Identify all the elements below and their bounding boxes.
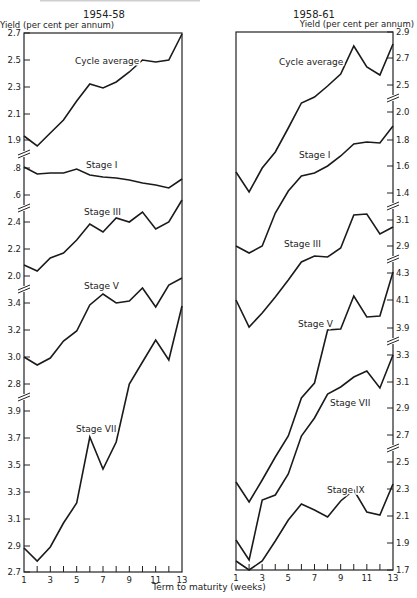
y-tick-label: .8 (13, 163, 21, 173)
y-tick-label: 1.8 (396, 135, 410, 145)
x-tick-label: 5 (74, 575, 79, 585)
y-tick-label: 2.7 (396, 430, 410, 440)
x-tick-label: 13 (388, 573, 399, 583)
y-tick-label: 2.7 (396, 53, 410, 63)
series-line-cycle-average (24, 34, 182, 146)
y-tick-label: 3.7 (7, 433, 21, 443)
series-label-stage-ix: Stage IX (327, 485, 365, 495)
x-tick-label: 5 (286, 573, 291, 583)
y-tick-label: 1.9 (396, 538, 410, 548)
series-label-cycle-average: Cycle average (75, 56, 140, 66)
y-tick-label: 2.4 (7, 217, 21, 227)
yield-curves-figure: 1954-58Yield (per cent per annum)2.72.52… (0, 0, 417, 598)
y-tick-label: 2.8 (7, 379, 21, 389)
x-axis-label: Term to maturity (weeks) (151, 582, 265, 592)
x-tick-label: 1 (21, 575, 26, 585)
y-tick-label: 2.1 (396, 511, 410, 521)
y-tick-label: 3.4 (7, 298, 21, 308)
series-line-stage-iii (236, 214, 393, 327)
series-label-stage-v: Stage V (84, 281, 120, 291)
panel-1958-61: 1958-61Yield (per cent per annum)2.92.72… (233, 9, 414, 583)
y-tick-label: 2.3 (7, 82, 21, 92)
series-line-stage-ix (236, 484, 393, 570)
y-tick-label: 2.2 (7, 244, 21, 254)
y-tick-label: 1.9 (7, 135, 21, 145)
x-tick-label: 3 (48, 575, 53, 585)
y-tick-label: 3.9 (7, 406, 21, 416)
y-tick-label: 3.1 (396, 215, 410, 225)
series-line-stage-v (236, 272, 393, 502)
panel-1954-58: 1954-58Yield (per cent per annum)2.72.52… (0, 9, 187, 585)
y-tick-label: 2.9 (396, 27, 410, 37)
y-tick-label: 2.9 (396, 403, 410, 413)
series-label-stage-i: Stage I (299, 150, 331, 160)
y-tick-label: 3.3 (7, 487, 21, 497)
x-tick-label: 7 (100, 575, 105, 585)
series-label-stage-iii: Stage III (84, 207, 121, 217)
y-tick-label: 2.5 (7, 55, 21, 65)
series-line-stage-i (236, 126, 393, 253)
y-tick-label: 3.3 (396, 350, 410, 360)
y-tick-label: 2.0 (7, 271, 21, 281)
x-tick-label: 11 (361, 573, 372, 583)
y-tick-label: 4.3 (396, 268, 410, 278)
y-tick-label: 1.6 (396, 161, 410, 171)
series-line-stage-i (24, 167, 182, 188)
panel-title: 1954-58 (83, 9, 125, 20)
y-tick-label: 2.7 (7, 28, 21, 38)
series-label-cycle-average: Cycle average (279, 57, 344, 67)
x-tick-label: 9 (127, 575, 132, 585)
y-tick-label: 2.3 (396, 484, 410, 494)
y-tick-label: 3.0 (7, 352, 21, 362)
y-tick-label: 2.9 (396, 241, 410, 251)
series-label-stage-vii: Stage VII (330, 398, 370, 408)
series-line-stage-vii (236, 355, 393, 560)
y-tick-label: 3.9 (396, 323, 410, 333)
y-tick-label: 2.5 (396, 457, 410, 467)
x-tick-label: 7 (312, 573, 317, 583)
series-label-stage-i: Stage I (86, 160, 118, 170)
y-tick-label: 3.5 (7, 460, 21, 470)
series-label-stage-v: Stage V (298, 319, 334, 329)
y-tick-label: 2.5 (396, 80, 410, 90)
y-tick-label: 2.0 (396, 107, 410, 117)
series-line-stage-v (24, 278, 182, 365)
y-tick-label: 4.1 (396, 295, 410, 305)
y-tick-label: 2.1 (7, 109, 21, 119)
series-label-stage-iii: Stage III (284, 239, 321, 249)
y-tick-label: 2.7 (7, 567, 21, 577)
y-tick-label: .6 (13, 190, 21, 200)
y-tick-label: 3.1 (396, 377, 410, 387)
clipped-figure-title (40, 0, 200, 2)
x-tick-label: 9 (338, 573, 343, 583)
plot-frame (236, 32, 393, 570)
y-tick-label: 3.2 (7, 325, 21, 335)
series-label-stage-vii: Stage VII (76, 424, 116, 434)
y-tick-label: 2.9 (7, 541, 21, 551)
y-tick-label: 1.4 (396, 188, 410, 198)
y-tick-label: 3.1 (7, 514, 21, 524)
